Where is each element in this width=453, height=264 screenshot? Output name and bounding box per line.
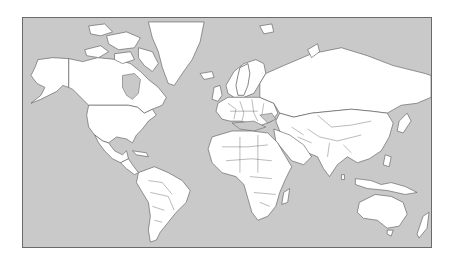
world-map bbox=[22, 17, 432, 248]
world-map-svg bbox=[23, 18, 431, 247]
country-sri-lanka bbox=[341, 175, 344, 180]
